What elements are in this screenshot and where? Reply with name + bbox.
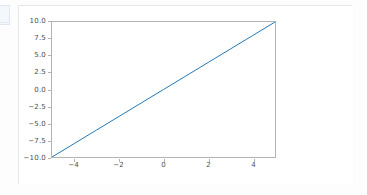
plot-output-card: 10.07.55.02.50.0−2.5−5.0−7.5−10.0 −4−202… <box>18 5 352 184</box>
y-tick-label: −7.5 <box>28 137 46 145</box>
x-tick-mark <box>164 159 165 162</box>
x-tick-mark <box>209 159 210 162</box>
x-tick-label: 0 <box>161 161 166 169</box>
x-tick-mark <box>254 159 255 162</box>
line-series-y-equals-2x <box>52 22 275 157</box>
y-tick-label: 2.5 <box>34 68 46 76</box>
y-tick-mark <box>48 90 51 91</box>
y-tick-mark <box>48 38 51 39</box>
line-series-svg <box>52 22 275 157</box>
plot-axes <box>51 21 276 158</box>
y-tick-mark <box>48 158 51 159</box>
page-canvas: 10.07.55.02.50.0−2.5−5.0−7.5−10.0 −4−202… <box>0 0 367 195</box>
x-tick-label: 4 <box>251 161 256 169</box>
x-tick-mark <box>74 159 75 162</box>
y-tick-label: −10.0 <box>24 154 46 162</box>
x-tick-label: −4 <box>68 161 79 169</box>
y-tick-mark <box>48 141 51 142</box>
matplotlib-figure: 10.07.55.02.50.0−2.5−5.0−7.5−10.0 −4−202… <box>19 6 353 185</box>
clipped-panel-edge-divider <box>0 22 9 23</box>
y-tick-mark <box>48 124 51 125</box>
y-tick-label: −5.0 <box>28 120 46 128</box>
y-tick-mark <box>48 55 51 56</box>
y-tick-mark <box>48 72 51 73</box>
x-tick-label: −2 <box>113 161 124 169</box>
y-tick-label: 7.5 <box>34 34 46 42</box>
y-tick-mark <box>48 107 51 108</box>
x-tick-label: 2 <box>206 161 211 169</box>
y-tick-label: 5.0 <box>34 51 46 59</box>
y-tick-label: −2.5 <box>28 103 46 111</box>
y-tick-mark <box>48 21 51 22</box>
plot-surface <box>52 22 275 157</box>
y-tick-label: 0.0 <box>34 86 46 94</box>
x-tick-mark <box>119 159 120 162</box>
y-tick-label: 10.0 <box>30 17 46 25</box>
